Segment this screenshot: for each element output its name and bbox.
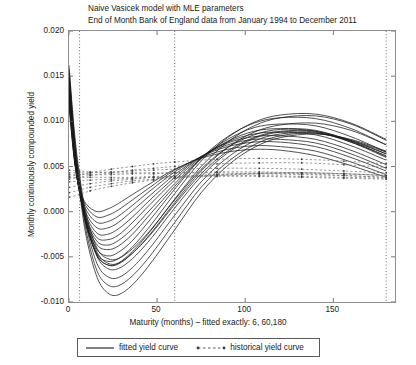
- x-tick-label: 150: [325, 305, 339, 314]
- chart-legend: fitted yield curve historical yield curv…: [77, 338, 320, 357]
- x-axis-label: Maturity (months) – fitted exactly: 6, 6…: [0, 318, 416, 327]
- x-axis-ticks: 050100150: [0, 0, 416, 365]
- chart-figure: Naive Vasicek model with MLE parameters …: [0, 0, 416, 365]
- x-tick-label: 100: [237, 305, 251, 314]
- legend-label-historical: historical yield curve: [230, 343, 304, 352]
- legend-line-solid-icon: [85, 343, 115, 353]
- legend-entry-fitted: fitted yield curve: [85, 343, 178, 353]
- legend-entry-historical: historical yield curve: [196, 343, 304, 353]
- legend-line-dashed-icon: [196, 343, 226, 353]
- x-tick-label: 50: [152, 305, 161, 314]
- x-tick-label: 0: [66, 305, 71, 314]
- legend-label-fitted: fitted yield curve: [119, 343, 178, 352]
